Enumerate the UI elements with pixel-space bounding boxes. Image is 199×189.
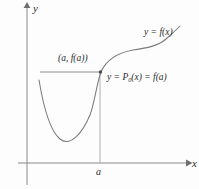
function-curve: [39, 26, 180, 141]
x-axis-label: x: [192, 158, 197, 169]
constant-approximation-label: y = P0(x) = f(a): [107, 73, 167, 83]
constant-label-suffix: (x) = f(a): [131, 72, 166, 82]
function-curve-label: y = f(x): [144, 28, 173, 38]
y-axis-arrow-icon: [24, 2, 31, 8]
x-tick-label-a: a: [96, 167, 101, 177]
taylor-constant-approximation-figure: y x a (a, f(a)) y = f(x) y = P0(x) = f(a…: [0, 0, 199, 189]
point-of-tangency-label: (a, f(a)): [58, 54, 88, 64]
y-axis-label: y: [33, 3, 38, 14]
tangency-point-marker: [99, 70, 102, 73]
constant-label-prefix: y = P: [107, 72, 128, 82]
